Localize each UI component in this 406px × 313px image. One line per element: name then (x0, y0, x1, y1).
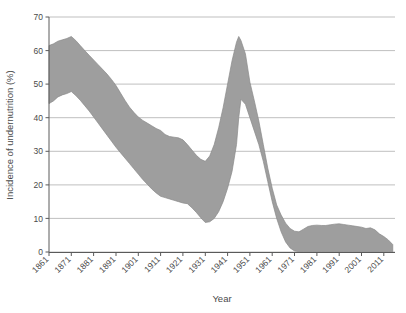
ytick-label-10: 10 (34, 214, 44, 224)
ytick-label-60: 60 (34, 46, 44, 56)
y-axis-ticks (46, 17, 50, 252)
y-axis-tick-labels: 010203040506070 (34, 12, 44, 257)
xtick-label-1971: 1971 (275, 254, 296, 275)
x-axis-title: Year (212, 293, 231, 304)
ytick-label-30: 30 (34, 146, 44, 156)
xtick-label-2011: 2011 (365, 254, 385, 274)
xtick-label-1871: 1871 (52, 254, 73, 275)
chart-figure: 010203040506070 186118711881189119011911… (0, 0, 406, 313)
xtick-label-1981: 1981 (298, 254, 319, 275)
xtick-label-1961: 1961 (253, 254, 274, 275)
xtick-label-1891: 1891 (97, 254, 118, 275)
y-axis-title: Incidence of undernutrition (%) (4, 70, 15, 199)
xtick-label-1991: 1991 (320, 254, 341, 275)
xtick-label-2001: 2001 (342, 254, 363, 275)
undernutrition-area-chart: 010203040506070 186118711881189119011911… (0, 0, 406, 313)
xtick-label-1901: 1901 (119, 254, 140, 275)
ytick-label-20: 20 (34, 180, 44, 190)
ytick-label-40: 40 (34, 113, 44, 123)
xtick-label-1951: 1951 (231, 254, 252, 275)
ytick-label-70: 70 (34, 12, 44, 22)
xtick-label-1861: 1861 (30, 254, 51, 275)
x-axis-tick-labels: 1861187118811891190119111921193119411951… (30, 254, 385, 275)
xtick-label-1921: 1921 (164, 254, 185, 275)
xtick-label-1881: 1881 (75, 254, 96, 275)
xtick-label-1911: 1911 (142, 254, 162, 274)
xtick-label-1931: 1931 (186, 254, 207, 275)
xtick-label-1941: 1941 (209, 254, 230, 275)
ytick-label-50: 50 (34, 79, 44, 89)
